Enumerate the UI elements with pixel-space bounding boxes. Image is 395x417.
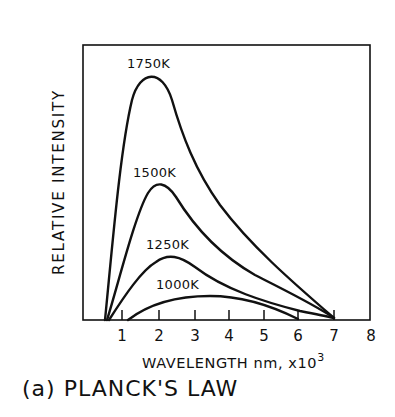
x-tick-label: 4 (224, 327, 234, 345)
curve-label-1250k: 1250K (146, 237, 189, 252)
x-tick-label: 1 (117, 327, 127, 345)
plot-frame (83, 45, 370, 320)
x-tick-labels: 1 2 3 4 5 6 7 8 (117, 327, 376, 345)
planck-chart: 1 2 3 4 5 6 7 8 WAVELENGTH nm, x103 RELA… (0, 0, 395, 417)
x-tick-label: 5 (259, 327, 269, 345)
x-tick-label: 6 (293, 327, 303, 345)
curve-labels: 1750K 1500K 1250K 1000K (127, 56, 199, 292)
curve-label-1500k: 1500K (133, 165, 176, 180)
curve-label-1000k: 1000K (156, 277, 199, 292)
x-axis-label: WAVELENGTH nm, x103 (142, 351, 325, 371)
x-tick-label: 3 (190, 327, 200, 345)
curve-label-1750k: 1750K (127, 56, 170, 71)
y-axis-label: RELATIVE INTENSITY (50, 89, 68, 275)
x-tick-label: 8 (366, 327, 376, 345)
x-tick-label: 7 (329, 327, 339, 345)
x-tick-label: 2 (154, 327, 164, 345)
curve-1000k (128, 296, 298, 320)
figure-caption: (a) PLANCK'S LAW (22, 376, 238, 401)
